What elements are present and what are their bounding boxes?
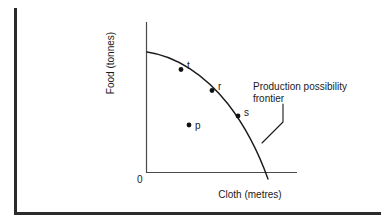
x-axis-title: Cloth (metres)	[196, 189, 304, 201]
origin-label: 0	[137, 174, 143, 186]
y-axis-title: Food (tonnes)	[104, 22, 118, 104]
point-marker-r	[210, 88, 215, 93]
point-label-r: r	[218, 81, 221, 93]
point-marker-p	[187, 123, 192, 128]
point-label-s: s	[244, 107, 249, 119]
point-label-t: t	[187, 60, 190, 72]
frontier-callout-leader	[262, 104, 283, 143]
y-axis-title-text: Food (tonnes)	[105, 32, 117, 94]
ppf-curve	[147, 52, 268, 179]
frontier-callout-label-line1: Production possibility	[253, 81, 365, 93]
frontier-callout-label: Production possibility frontier	[253, 81, 365, 104]
frontier-callout-label-line2: frontier	[253, 93, 365, 105]
point-marker-s	[236, 114, 241, 119]
point-marker-t	[179, 67, 184, 72]
point-label-p: p	[195, 120, 201, 132]
ppf-figure: Food (tonnes) Cloth (metres) 0 Productio…	[0, 0, 381, 223]
chart-canvas	[0, 0, 381, 223]
